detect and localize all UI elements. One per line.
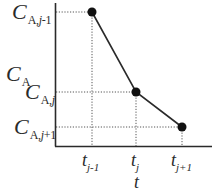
x-tick-label-j: tj <box>131 151 139 169</box>
data-point-j <box>132 88 141 97</box>
y-axis-title-main: C <box>6 61 21 86</box>
y-tick-label-j-plus-1: CA,j+1 <box>14 116 56 138</box>
data-point-j-plus-1 <box>178 123 187 132</box>
y-tick-sub: A,j+1 <box>30 128 56 142</box>
x-tick-label-j-minus-1: tj-1 <box>82 151 99 169</box>
sub-var: j <box>52 93 55 107</box>
guide-lines <box>56 12 182 146</box>
sub-prefix: A, <box>28 13 39 27</box>
y-tick-sub: A,j-1 <box>28 13 52 27</box>
y-tick-main: C <box>14 114 29 139</box>
x-axis-title: t <box>134 173 139 191</box>
y-tick-sub: A,j <box>41 93 55 107</box>
x-tick-label-j-plus-1: tj+1 <box>171 151 192 169</box>
y-tick-main: C <box>12 0 27 24</box>
sub-prefix: A, <box>30 128 41 142</box>
concentration-curve <box>92 12 182 127</box>
data-point-j-minus-1 <box>88 8 97 17</box>
sub-prefix: A, <box>41 93 52 107</box>
y-tick-label-j-minus-1: CA,j-1 <box>12 1 51 23</box>
x-tick-sub: j-1 <box>87 161 99 173</box>
x-tick-sub: j+1 <box>176 161 192 173</box>
sub-suffix: -1 <box>42 13 51 27</box>
sub-suffix: +1 <box>44 128 56 142</box>
y-tick-label-j: CA,j <box>25 81 55 103</box>
y-tick-main: C <box>25 79 40 104</box>
